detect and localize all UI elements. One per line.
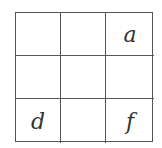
cell-r1-c1 — [16, 13, 61, 56]
cell-r3-c3: f — [106, 99, 154, 143]
cell-r3-c1: d — [16, 99, 61, 143]
cell-r3-c2 — [61, 99, 106, 143]
cell-r2-c1 — [16, 56, 61, 99]
cell-r2-c3 — [106, 56, 154, 99]
cell-r1-c2 — [61, 13, 106, 56]
grid-3x3: a d f — [15, 12, 153, 142]
cell-r1-c3: a — [106, 13, 154, 56]
cell-r2-c2 — [61, 56, 106, 99]
